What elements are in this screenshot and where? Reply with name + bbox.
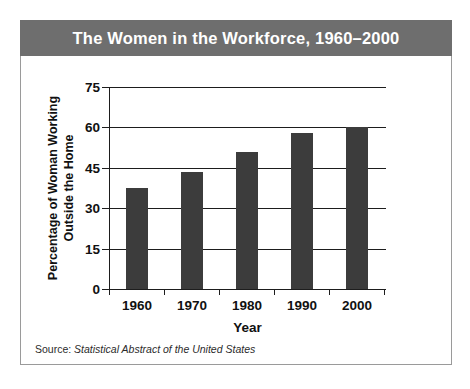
chart-panel: Percentage of Woman Working Outside the … — [20, 56, 452, 365]
x-tick-label-1970: 1970 — [177, 298, 207, 313]
x-tick-label-1990: 1990 — [287, 298, 317, 313]
y-tick-label-75: 75 — [85, 80, 100, 95]
y-tick-label-45: 45 — [85, 160, 100, 175]
bar-1960 — [126, 188, 148, 289]
chart-figure: The Women in the Workforce, 1960–2000 Pe… — [20, 20, 452, 365]
gridline-75 — [109, 87, 386, 88]
y-axis-title-line2: Outside the Home — [62, 135, 76, 242]
x-tick-label-1960: 1960 — [122, 298, 152, 313]
y-axis-title: Percentage of Woman Working Outside the … — [33, 87, 91, 289]
y-tick-label-30: 30 — [85, 201, 100, 216]
y-axis-title-line1: Percentage of Woman Working — [46, 96, 60, 280]
y-tick-label-60: 60 — [85, 120, 100, 135]
plot-area: 75 60 45 30 15 0 1960 1970 1980 1990 200… — [109, 87, 386, 289]
gridline-60 — [109, 127, 386, 128]
bar-1970 — [181, 172, 203, 289]
y-tick-mark-45 — [102, 168, 109, 169]
y-tick-mark-0 — [102, 289, 109, 290]
y-tick-mark-15 — [102, 249, 109, 250]
bar-1980 — [236, 152, 258, 289]
y-tick-label-15: 15 — [85, 241, 100, 256]
x-tick-mark-4 — [329, 289, 330, 295]
x-tick-label-1980: 1980 — [232, 298, 262, 313]
source-prefix: Source: — [35, 343, 71, 355]
y-tick-mark-30 — [102, 208, 109, 209]
x-tick-label-2000: 2000 — [342, 298, 372, 313]
y-axis-line — [109, 87, 110, 289]
axis-baseline-0 — [109, 289, 386, 290]
source-note: Source: Statistical Abstract of the Unit… — [35, 343, 255, 355]
chart-title-bar: The Women in the Workforce, 1960–2000 — [20, 20, 452, 56]
x-axis-title: Year — [109, 320, 386, 335]
x-tick-mark-right — [384, 289, 385, 295]
x-tick-mark-3 — [274, 289, 275, 295]
y-tick-label-0: 0 — [92, 282, 100, 297]
x-tick-mark-left — [109, 289, 110, 295]
x-tick-mark-1 — [164, 289, 165, 295]
x-tick-mark-2 — [219, 289, 220, 295]
y-tick-mark-75 — [102, 87, 109, 88]
bar-2000 — [346, 127, 368, 289]
bar-1990 — [291, 133, 313, 289]
page-title: The Women in the Workforce, 1960–2000 — [73, 29, 400, 48]
source-title: Statistical Abstract of the United State… — [74, 343, 255, 355]
y-tick-mark-60 — [102, 127, 109, 128]
